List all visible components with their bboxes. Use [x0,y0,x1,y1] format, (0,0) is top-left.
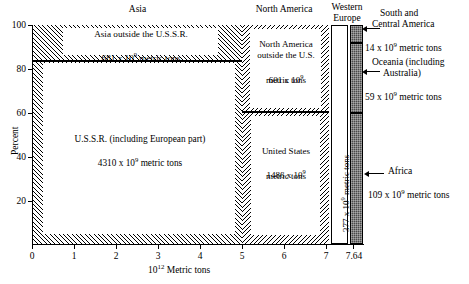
asia-outside-label-line1: Asia outside the U.S.S.R. [60,29,222,41]
af-num: 109 [368,190,382,200]
callout-arrow-south-central [365,28,380,29]
y-tick-80 [28,69,33,70]
x-tick-4 [200,244,201,249]
x-tick-label-5: 5 [232,251,252,261]
x-tick-label-6: 6 [274,251,294,261]
x-tick-0 [32,244,33,249]
callout-south-central-value: 14 x 109 metric tons [365,31,469,54]
usa-label-units: metric tons [249,171,323,183]
x-tick-label-2: 2 [106,251,126,261]
oc-times: x 10 [375,92,394,102]
x-tick-1 [74,244,75,249]
af-times: x 10 [382,190,401,200]
bar-na-divider-rule [242,111,329,113]
x-axis-title: 1012 Metric tons [148,265,210,276]
callout-arrow-africa [368,173,384,174]
ussr-num: 4310 [98,158,117,168]
x-tick-3 [158,244,159,249]
x-axis-title-suffix: Metric tons [164,265,210,275]
x-tick-label-0: 0 [22,251,42,261]
ussr-units: metric tons [138,158,182,168]
y-tick-label-80: 80 [0,64,26,74]
group-header-western-europe-line1: Western [324,2,370,13]
x-tick-label-7: 7 [316,251,336,261]
asia-outside-units: metric tons [137,53,180,63]
x-tick-6 [284,244,285,249]
segment-divider-south-central [350,42,363,44]
x-tick-label-3: 3 [148,251,168,261]
x-tick-2 [116,244,117,249]
x-axis-line [32,244,364,245]
callout-africa-value: 109 x 109 metric tons [368,178,469,201]
callout-arrowhead-africa [364,171,369,177]
x-tick-7 [326,244,327,249]
ussr-label-value: 4310 x 109 metric tons [50,146,230,169]
asia-outside-num: 681 [102,53,116,63]
callout-south-central-line2: Central America [372,19,469,31]
y-tick-100 [28,25,33,26]
oc-units: metric tons [397,92,442,102]
group-header-north-america: North America [239,4,329,15]
y-tick-40 [28,157,33,158]
asia-outside-times: x 10 [115,53,133,63]
usa-label-line1: United States [249,146,323,158]
sc-num: 14 [365,43,375,53]
na-outside-label-line1: North America [249,39,323,51]
sc-units: metric tons [397,43,442,53]
group-header-asia: Asia [33,4,242,15]
callout-south-central-line1: South and [380,8,469,20]
group-header-western-europe-line2: Europe [324,13,370,24]
y-tick-20 [28,201,33,202]
callout-arrowhead-south-central [362,26,367,32]
bar-other-regions [350,25,363,244]
callout-africa-line1: Africa [388,166,458,178]
x-tick-label-4: 4 [190,251,210,261]
callout-oceania-value: 59 x 109 metric tons [365,80,469,103]
na-outside-label-line2: outside the U.S. [247,50,325,62]
callout-oceania-line2: Australia) [383,68,469,80]
segment-divider-oceania [350,112,363,114]
x-axis-title-prefix: 10 [148,265,158,275]
asia-outside-label-value: 681 x 109 metric tons [60,41,222,64]
callout-oceania-line1: Oceania (including [372,57,469,69]
callout-arrow-oceania [365,71,380,72]
na-outside-label-units: metric tons [249,75,323,87]
y-tick-label-20: 20 [0,196,26,206]
oc-num: 59 [365,92,375,102]
x-tick-764 [353,244,354,249]
y-tick-label-60: 60 [0,108,26,118]
y-axis-title: Percent [10,127,20,156]
ussr-times: x 10 [116,158,135,168]
chart-canvas: Asia North America Western Europe 377 x … [0,0,469,284]
y-axis-line [32,25,33,245]
af-units: metric tons [405,190,450,200]
y-tick-60 [28,113,33,114]
we-exp: 9 [339,197,346,200]
y-tick-label-100: 100 [0,20,26,30]
x-tick-label-1: 1 [64,251,84,261]
sc-times: x 10 [375,43,394,53]
x-tick-label-764: 7.64 [338,251,370,261]
ussr-label-line1: U.S.S.R. (including European part) [50,134,230,146]
callout-arrowhead-oceania [362,69,367,75]
x-tick-5 [242,244,243,249]
